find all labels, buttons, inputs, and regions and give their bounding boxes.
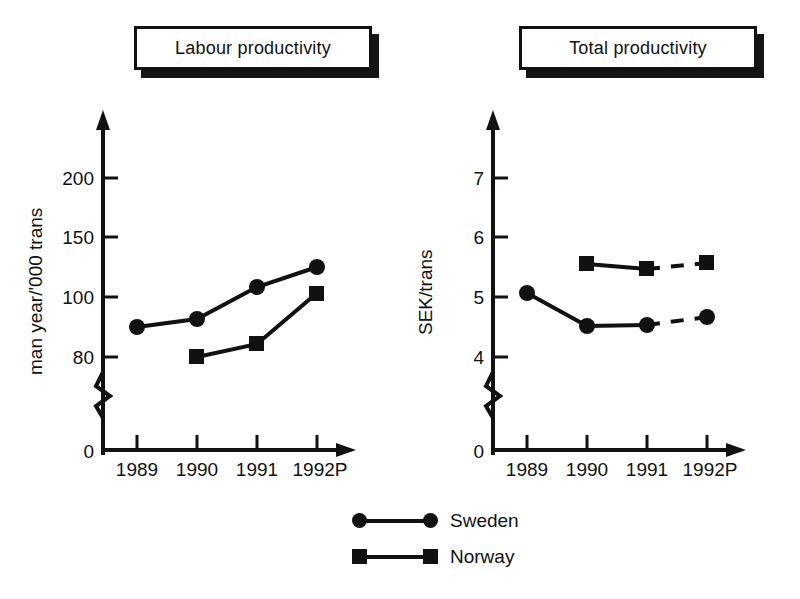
legend-item-norway: Norway — [352, 542, 514, 572]
chart-panel-labour-productivity: 200 150 100 80 0 man year/'000 trans 198… — [8, 100, 398, 490]
series-sweden — [129, 259, 325, 335]
chart-title-labour: Labour productivity — [175, 38, 331, 59]
y-axis-title: man year/'000 trans — [25, 208, 46, 375]
circle-marker-icon — [352, 513, 367, 528]
data-point-sweden-1992P — [309, 259, 325, 275]
legend-line — [358, 555, 432, 559]
data-point-sweden-1990 — [579, 318, 595, 334]
data-point-norway-1991 — [249, 336, 264, 351]
square-marker-icon — [423, 549, 438, 564]
x-tick-label-1991: 1991 — [626, 459, 668, 480]
y-tick-label-6: 6 — [473, 227, 484, 248]
x-axis-ticks — [137, 435, 317, 450]
x-axis-ticks — [527, 435, 707, 450]
chart-panel-total-productivity: 7 6 5 4 0 SEK/trans 1989 1990 1991 1992P — [398, 100, 788, 490]
legend-swatch-sweden — [352, 510, 438, 532]
legend-swatch-norway — [352, 546, 438, 568]
y-axis — [96, 110, 110, 455]
legend-item-sweden: Sweden — [352, 506, 519, 536]
plaque-face: Labour productivity — [134, 26, 372, 70]
y-axis-ticks — [103, 178, 118, 357]
x-tick-label-1989: 1989 — [506, 459, 548, 480]
data-point-sweden-1989 — [129, 319, 145, 335]
chart-title-total: Total productivity — [569, 38, 707, 59]
y-axis — [486, 110, 500, 455]
forecast-segment-norway — [647, 263, 707, 269]
data-point-sweden-1991 — [249, 279, 265, 295]
data-point-sweden-1989 — [519, 285, 535, 301]
y-tick-label-4: 4 — [473, 347, 484, 368]
data-point-norway-1990 — [189, 349, 204, 364]
y-tick-label-5: 5 — [473, 287, 484, 308]
data-point-sweden-1992P — [699, 309, 715, 325]
series-sweden — [519, 285, 715, 334]
y-tick-label-80: 80 — [73, 347, 94, 368]
x-tick-label-1989: 1989 — [116, 459, 158, 480]
chart-legend: Sweden Norway — [352, 500, 602, 578]
x-tick-label-1992P: 1992P — [293, 459, 348, 480]
forecast-segment-sweden — [647, 317, 707, 325]
chart-title-plaque-labour: Labour productivity — [134, 26, 372, 70]
y-axis-title: SEK/trans — [415, 249, 436, 335]
y-tick-label-0: 0 — [473, 441, 484, 462]
legend-label-norway: Norway — [450, 546, 514, 568]
data-point-sweden-1990 — [189, 311, 205, 327]
total-productivity-plot: 7 6 5 4 0 SEK/trans 1989 1990 1991 1992P — [398, 100, 788, 490]
legend-line — [358, 519, 432, 523]
y-tick-label-200: 200 — [62, 168, 94, 189]
y-tick-label-0: 0 — [83, 441, 94, 462]
x-tick-label-1991: 1991 — [236, 459, 278, 480]
circle-marker-icon — [423, 513, 438, 528]
y-tick-label-150: 150 — [62, 227, 94, 248]
legend-label-sweden: Sweden — [450, 510, 519, 532]
series-norway — [189, 286, 324, 364]
x-tick-label-1990: 1990 — [566, 459, 608, 480]
plaque-face: Total productivity — [519, 26, 757, 70]
chart-title-plaque-total: Total productivity — [519, 26, 757, 70]
y-tick-label-7: 7 — [473, 168, 484, 189]
data-point-norway-1992P — [309, 286, 324, 301]
data-point-norway-1991 — [639, 261, 654, 276]
y-axis-ticks — [493, 178, 508, 357]
x-tick-label-1990: 1990 — [176, 459, 218, 480]
y-tick-label-100: 100 — [62, 287, 94, 308]
x-tick-label-1992P: 1992P — [683, 459, 738, 480]
data-point-norway-1990 — [579, 256, 594, 271]
data-point-sweden-1991 — [639, 317, 655, 333]
labour-productivity-plot: 200 150 100 80 0 man year/'000 trans 198… — [8, 100, 398, 490]
series-norway — [579, 255, 714, 276]
square-marker-icon — [352, 549, 367, 564]
data-point-norway-1992P — [699, 255, 714, 270]
